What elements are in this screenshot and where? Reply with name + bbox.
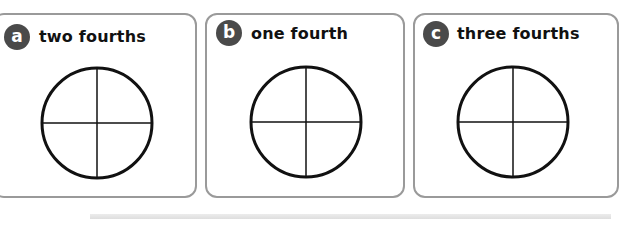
- letter-badge-a: a: [4, 24, 30, 50]
- letter-badge-c: c: [423, 21, 449, 47]
- fraction-circle-a[interactable]: [40, 65, 156, 181]
- fraction-label: one fourth: [251, 24, 348, 43]
- fraction-circle-c[interactable]: [457, 64, 573, 180]
- fraction-label: two fourths: [39, 27, 146, 46]
- bottom-divider: [90, 214, 611, 219]
- letter-badge-b: b: [216, 20, 242, 46]
- fraction-circle-b[interactable]: [249, 65, 365, 181]
- fraction-label: three fourths: [457, 24, 580, 43]
